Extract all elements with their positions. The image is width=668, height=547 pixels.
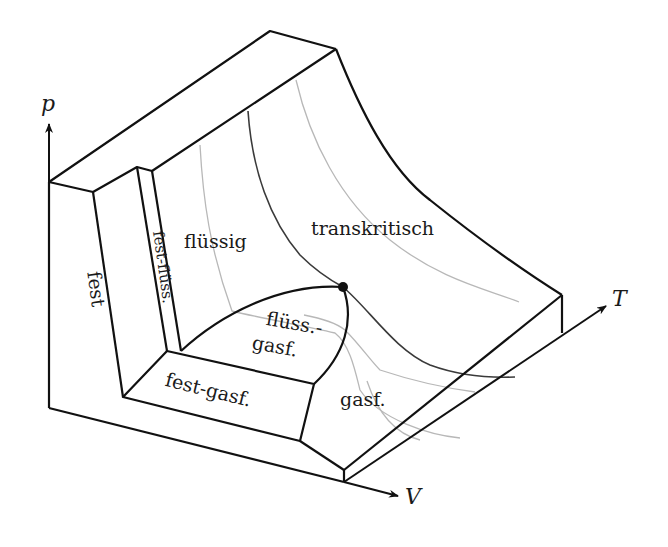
region-gasf: gasf. — [340, 390, 386, 409]
region-fluessig: flüssig — [184, 232, 247, 251]
p-axis-label: p — [41, 93, 55, 115]
surface-outline — [49, 31, 562, 482]
V-axis — [344, 482, 398, 496]
isotherms-light — [200, 80, 519, 440]
pvt-diagram: p T V fest fest-flüss. flüssig transkrit… — [0, 0, 668, 547]
region-transkritisch: transkritisch — [311, 219, 434, 238]
critical-point-marker — [338, 282, 348, 292]
V-axis-label: V — [405, 486, 421, 508]
region-fest: fest — [84, 270, 108, 308]
T-axis-label: T — [612, 288, 627, 310]
